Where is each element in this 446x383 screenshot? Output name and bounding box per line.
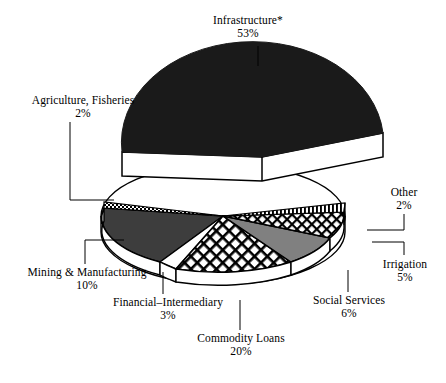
slice-label-irrigation: Irrigation 5%	[364, 258, 446, 284]
slice-label-financial-intermediary-percent: 3%	[93, 309, 243, 322]
slice-label-irrigation-percent: 5%	[364, 271, 446, 284]
slice-label-infrastructure: Infrastructure* 53%	[178, 14, 318, 40]
leader-line-other	[367, 214, 404, 230]
slice-label-other-percent: 2%	[370, 199, 438, 212]
leader-line-agriculture	[70, 122, 114, 200]
slice-label-commodity-loans-percent: 20%	[175, 345, 307, 358]
slice-label-mining-manufacturing-percent: 10%	[6, 279, 168, 292]
slice-label-financial-intermediary-name: Financial–Intermediary	[113, 296, 223, 308]
slice-label-agriculture-fisheries-name: Agriculture, Fisheries	[32, 94, 134, 106]
slice-label-irrigation-name: Irrigation	[383, 258, 427, 270]
slice-label-agriculture-fisheries: Agriculture, Fisheries 2%	[8, 94, 158, 120]
pie-chart: Infrastructure* 53% Agriculture, Fisheri…	[0, 0, 446, 383]
slice-label-infrastructure-percent: 53%	[178, 27, 318, 40]
slice-label-social-services-percent: 6%	[294, 307, 404, 320]
slice-label-mining-manufacturing-name: Mining & Manufacturing	[27, 266, 146, 278]
pie-infrastructure-group	[121, 42, 383, 181]
leader-line-irrigation	[372, 242, 404, 255]
slice-label-agriculture-fisheries-percent: 2%	[8, 107, 158, 120]
slice-label-social-services: Social Services 6%	[294, 294, 404, 320]
slice-label-social-services-name: Social Services	[313, 294, 385, 306]
slice-label-mining-manufacturing: Mining & Manufacturing 10%	[6, 266, 168, 292]
slice-label-financial-intermediary: Financial–Intermediary 3%	[93, 296, 243, 322]
slice-label-commodity-loans-name: Commodity Loans	[197, 332, 284, 344]
slice-label-other: Other 2%	[370, 186, 438, 212]
slice-other-wall	[344, 203, 345, 225]
slice-label-commodity-loans: Commodity Loans 20%	[175, 332, 307, 358]
slice-label-infrastructure-name: Infrastructure*	[213, 14, 283, 26]
slice-label-other-name: Other	[391, 186, 418, 198]
slice-infrastructure[interactable]	[121, 42, 383, 157]
